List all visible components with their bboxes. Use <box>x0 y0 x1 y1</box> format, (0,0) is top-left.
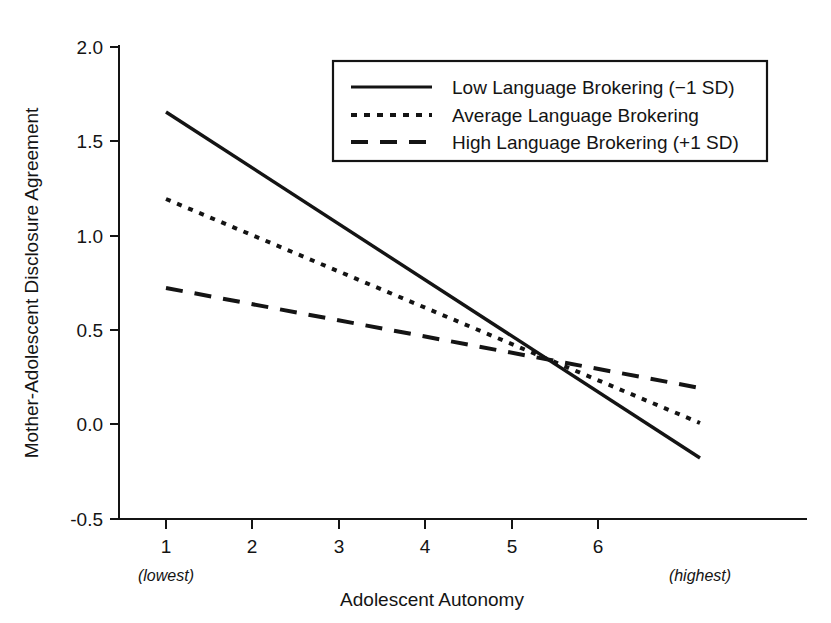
x-axis-high-anchor-label: (highest) <box>669 567 731 584</box>
legend: Low Language Brokering (−1 SD) Average L… <box>333 61 767 161</box>
y-tick-label-0: 2.0 <box>77 37 103 58</box>
x-tick-label-1: 2 <box>247 536 258 557</box>
y-tick-label-3: 0.5 <box>77 320 103 341</box>
x-tick-marks <box>166 519 598 529</box>
x-tick-label-4: 5 <box>507 536 518 557</box>
series-line-low-language-brokering <box>166 112 700 458</box>
x-tick-label-3: 4 <box>420 536 431 557</box>
y-tick-marks <box>110 47 119 519</box>
y-axis-title: Mother-Adolescent Disclosure Agreement <box>21 107 42 458</box>
y-tick-label-2: 1.0 <box>77 226 103 247</box>
legend-label-1: Average Language Brokering <box>452 105 699 126</box>
legend-label-0: Low Language Brokering (−1 SD) <box>452 77 735 98</box>
y-tick-label-4: 0.0 <box>77 414 103 435</box>
series-line-high-language-brokering <box>166 288 700 388</box>
series-group <box>166 112 700 458</box>
x-axis-low-anchor-label: (lowest) <box>138 567 194 584</box>
y-tick-label-5: -0.5 <box>70 509 103 530</box>
y-tick-labels: 2.0 1.5 1.0 0.5 0.0 -0.5 <box>70 37 103 530</box>
x-tick-labels: 1 2 3 4 5 6 <box>161 536 604 557</box>
series-line-average-language-brokering <box>166 199 700 423</box>
x-axis-title: Adolescent Autonomy <box>340 589 524 610</box>
x-tick-label-0: 1 <box>161 536 172 557</box>
y-tick-label-1: 1.5 <box>77 131 103 152</box>
line-chart-canvas: 2.0 1.5 1.0 0.5 0.0 -0.5 1 2 3 4 5 6 (lo… <box>0 0 831 623</box>
chart-figure: 2.0 1.5 1.0 0.5 0.0 -0.5 1 2 3 4 5 6 (lo… <box>0 0 831 623</box>
x-tick-label-2: 3 <box>334 536 345 557</box>
x-tick-label-5: 6 <box>593 536 604 557</box>
legend-label-2: High Language Brokering (+1 SD) <box>452 132 739 153</box>
